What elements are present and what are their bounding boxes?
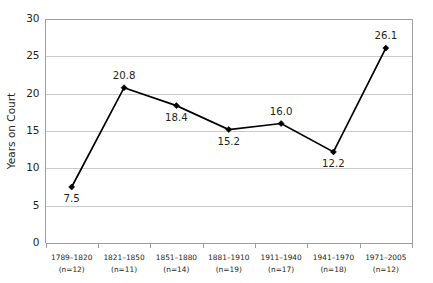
x-axis-category-label: 1941–1970: [313, 253, 355, 262]
y-axis-tick-labels: 051015202530: [26, 12, 39, 248]
y-axis-tick-label: 20: [26, 87, 39, 99]
data-point-marker: [121, 85, 127, 91]
x-axis-category-label: 1821–1850: [103, 253, 145, 262]
x-axis-category-label: 1971–2005: [365, 253, 407, 262]
y-axis-tick-label: 15: [26, 124, 39, 136]
y-axis-tick-label: 30: [26, 12, 39, 24]
y-axis-title: Years on Court: [5, 93, 17, 170]
line-chart: 051015202530 7.520.818.415.216.012.226.1…: [0, 0, 433, 283]
data-point-value-label: 15.2: [217, 136, 240, 147]
data-point-value-label: 26.1: [374, 30, 397, 41]
data-point-value-label: 7.5: [64, 193, 80, 204]
x-axis-category-labels: 1789–1820(n=12)1821–1850(n=11)1851–1880(…: [51, 253, 407, 274]
data-point-marker: [383, 45, 389, 51]
x-axis-category-label: 1911–1940: [260, 253, 302, 262]
data-point-value-label: 20.8: [113, 70, 136, 81]
x-axis-category-sublabel: (n=19): [216, 265, 242, 274]
data-point-marker: [173, 103, 179, 109]
data-point-value-label: 18.4: [165, 112, 188, 123]
x-axis-category-sublabel: (n=12): [373, 265, 399, 274]
x-axis-category-sublabel: (n=12): [59, 265, 85, 274]
chart-canvas: 051015202530 7.520.818.415.216.012.226.1…: [0, 0, 433, 283]
x-axis-category-sublabel: (n=18): [320, 265, 346, 274]
data-point-value-label: 12.2: [322, 158, 345, 169]
x-axis-category-sublabel: (n=11): [111, 265, 137, 274]
x-axis-category-label: 1881–1910: [208, 253, 250, 262]
x-axis-category-sublabel: (n=14): [163, 265, 189, 274]
y-axis-tick-label: 5: [33, 199, 40, 211]
y-axis-tick-label: 25: [26, 49, 39, 61]
y-axis-tick-label: 0: [33, 236, 40, 248]
x-axis-category-sublabel: (n=17): [268, 265, 294, 274]
y-axis-tick-label: 10: [26, 161, 39, 173]
x-axis-category-label: 1851–1880: [156, 253, 198, 262]
data-point-value-label: 16.0: [270, 106, 293, 117]
data-point-marker: [69, 184, 75, 190]
x-axis-category-label: 1789–1820: [51, 253, 93, 262]
